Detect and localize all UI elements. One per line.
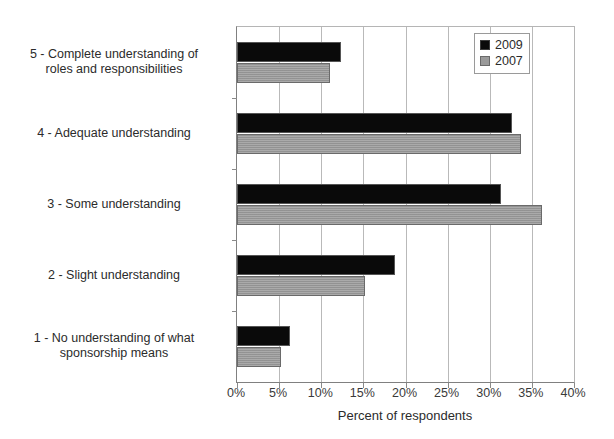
bar-2009 bbox=[237, 184, 501, 204]
bar-2007 bbox=[237, 205, 542, 225]
bar-group bbox=[237, 169, 574, 240]
category-label-line: 5 - Complete understanding of bbox=[0, 47, 228, 62]
bar-group bbox=[237, 240, 574, 311]
legend: 2009 2007 bbox=[474, 33, 530, 74]
category-label-line: sponsorship means bbox=[0, 346, 228, 361]
category-label-line: roles and responsibilities bbox=[0, 62, 228, 77]
category-label-line: 2 - Slight understanding bbox=[0, 267, 228, 282]
bar-2007 bbox=[237, 134, 521, 154]
bar-group bbox=[237, 311, 574, 382]
bar-group bbox=[237, 98, 574, 169]
y-axis-tick bbox=[232, 311, 237, 312]
legend-item-2009: 2009 bbox=[480, 37, 523, 53]
category-label: 4 - Adequate understanding bbox=[0, 125, 228, 140]
y-axis-tick bbox=[232, 240, 237, 241]
x-axis-tick-label: 30% bbox=[476, 386, 501, 400]
category-label-line: 4 - Adequate understanding bbox=[0, 125, 228, 140]
category-label: 2 - Slight understanding bbox=[0, 267, 228, 282]
gray-square-icon bbox=[480, 56, 490, 66]
bar-2009 bbox=[237, 255, 395, 275]
x-axis-tick-labels: 0%5%10%15%20%25%30%35%40% bbox=[200, 386, 614, 404]
bar-chart: 1 - No understanding of whatsponsorship … bbox=[0, 0, 614, 439]
x-axis-tick-label: 0% bbox=[227, 386, 245, 400]
x-axis-tick-label: 10% bbox=[308, 386, 333, 400]
black-square-icon bbox=[480, 40, 490, 50]
legend-item-2007: 2007 bbox=[480, 53, 523, 69]
y-axis-tick bbox=[232, 98, 237, 99]
x-axis-tick-label: 20% bbox=[392, 386, 417, 400]
category-label-line: 3 - Some understanding bbox=[0, 196, 228, 211]
x-axis-title: Percent of respondents bbox=[236, 408, 574, 423]
category-label: 1 - No understanding of whatsponsorship … bbox=[0, 331, 228, 361]
x-axis-tick-label: 35% bbox=[518, 386, 543, 400]
legend-label: 2007 bbox=[495, 54, 523, 68]
bar-2007 bbox=[237, 63, 330, 83]
x-axis-tick-label: 40% bbox=[560, 386, 585, 400]
category-label-line: 1 - No understanding of what bbox=[0, 331, 228, 346]
x-axis-tick-label: 25% bbox=[434, 386, 459, 400]
x-axis-tick-label: 5% bbox=[269, 386, 287, 400]
legend-label: 2009 bbox=[495, 38, 523, 52]
bar-2009 bbox=[237, 326, 290, 346]
category-axis-labels: 1 - No understanding of whatsponsorship … bbox=[0, 26, 230, 381]
category-label: 3 - Some understanding bbox=[0, 196, 228, 211]
bar-2009 bbox=[237, 113, 512, 133]
plot-area bbox=[236, 26, 575, 383]
y-axis-tick bbox=[232, 169, 237, 170]
x-axis-tick-label: 15% bbox=[350, 386, 375, 400]
bar-2007 bbox=[237, 347, 281, 367]
category-label: 5 - Complete understanding ofroles and r… bbox=[0, 47, 228, 77]
bar-2007 bbox=[237, 276, 365, 296]
bar-2009 bbox=[237, 42, 341, 62]
